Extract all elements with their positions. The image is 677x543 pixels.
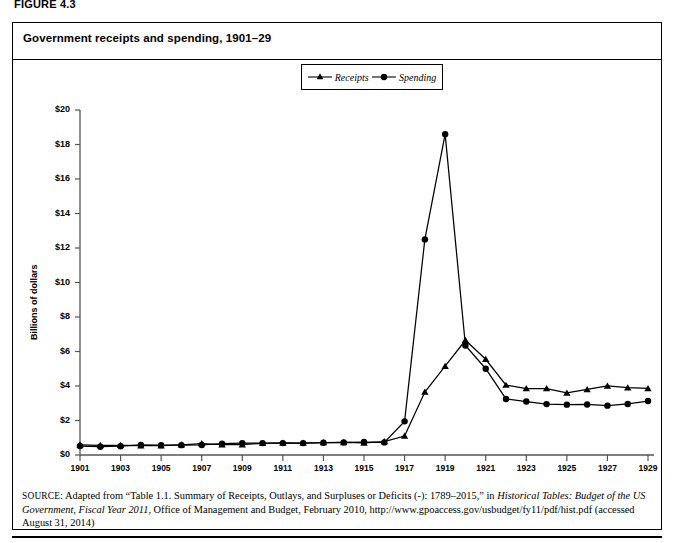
circle-marker-icon (372, 72, 396, 82)
y-tick-label: $12 (36, 242, 70, 252)
figure-label: FIGURE 4.3 (14, 0, 76, 10)
y-tick-label: $2 (36, 415, 70, 425)
legend-item-spending[interactable]: Spending (372, 72, 436, 83)
x-tick-label: 1903 (101, 463, 141, 473)
x-tick-label: 1927 (587, 463, 627, 473)
x-tick-label: 1921 (466, 463, 506, 473)
y-tick-label: $10 (36, 277, 70, 287)
y-tick-label: $8 (36, 311, 70, 321)
x-tick-label: 1913 (303, 463, 343, 473)
chart-title: Government receipts and spending, 1901–2… (23, 32, 271, 44)
source-text-1: Adapted from “Table 1.1. Summary of Rece… (63, 490, 497, 501)
title-divider (13, 59, 661, 60)
x-tick-label: 1907 (182, 463, 222, 473)
chart-legend: Receipts Spending (301, 64, 443, 90)
x-tick-label: 1917 (385, 463, 425, 473)
x-tick-label: 1929 (628, 463, 668, 473)
legend-label-spending: Spending (399, 72, 436, 83)
x-tick-label: 1925 (547, 463, 587, 473)
y-tick-label: $16 (36, 173, 70, 183)
x-tick-label: 1911 (263, 463, 303, 473)
x-tick-label: 1905 (141, 463, 181, 473)
triangle-up-marker-icon (308, 72, 332, 82)
x-tick-label: 1915 (344, 463, 384, 473)
x-tick-label: 1919 (425, 463, 465, 473)
y-tick-label: $4 (36, 380, 70, 390)
y-tick-label: $14 (36, 208, 70, 218)
x-tick-label: 1901 (60, 463, 100, 473)
source-prefix: SOURCE: (22, 491, 63, 501)
chart-frame: Government receipts and spending, 1901–2… (12, 22, 662, 530)
x-tick-label: 1923 (506, 463, 546, 473)
y-tick-label: $6 (36, 346, 70, 356)
legend-item-receipts[interactable]: Receipts (308, 72, 369, 83)
x-tick-label: 1909 (222, 463, 262, 473)
y-tick-label: $20 (36, 104, 70, 114)
y-tick-label: $0 (36, 449, 70, 459)
figure-container: FIGURE 4.3 Government receipts and spend… (0, 0, 677, 543)
bottom-divider (12, 536, 662, 538)
y-tick-label: $18 (36, 139, 70, 149)
legend-label-receipts: Receipts (335, 72, 369, 83)
source-note: SOURCE: Adapted from “Table 1.1. Summary… (22, 489, 654, 530)
